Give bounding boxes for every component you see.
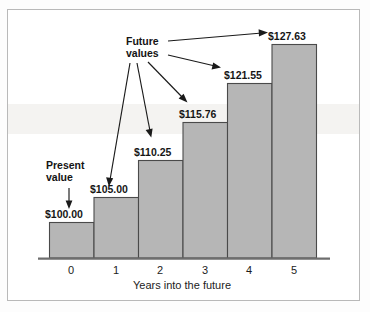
x-tick-label-5: 5	[291, 264, 297, 276]
present-value-annotation: Present value	[46, 159, 85, 209]
bar-value-label-4: $121.55	[224, 69, 262, 81]
bar-value-label-3: $115.76	[179, 108, 217, 120]
bar-year-0[interactable]	[50, 223, 95, 259]
future-arrow-to-127	[168, 29, 268, 41]
x-tick-label-3: 3	[202, 264, 208, 276]
x-tick-label-1: 1	[113, 264, 119, 276]
bar-chart: $100.00 $105.00 $110.25 $115.76 $121.55 …	[0, 0, 370, 312]
bar-year-4[interactable]	[228, 84, 273, 259]
bar-value-label-0: $100.00	[45, 208, 83, 220]
bar-year-3[interactable]	[183, 123, 228, 259]
bar-value-label-5: $127.63	[268, 30, 306, 42]
bar-year-1[interactable]	[94, 198, 139, 259]
future-arrow-to-115	[148, 62, 188, 103]
future-arrow-to-121	[168, 55, 221, 70]
x-axis-title: Years into the future	[133, 279, 231, 291]
bar-year-5[interactable]	[272, 45, 317, 259]
future-arrow-to-105	[106, 63, 130, 187]
bar-year-2[interactable]	[139, 161, 184, 259]
bars-group	[50, 45, 317, 259]
bar-value-label-2: $110.25	[134, 146, 172, 158]
future-values-label-line2: values	[126, 47, 159, 59]
x-tick-label-2: 2	[157, 264, 163, 276]
figure-canvas: $100.00 $105.00 $110.25 $115.76 $121.55 …	[0, 0, 370, 312]
present-value-label-line1: Present	[46, 159, 85, 171]
future-arrow-to-110	[137, 63, 153, 138]
future-values-label-line1: Future	[126, 35, 159, 47]
x-tick-label-4: 4	[246, 264, 252, 276]
x-tick-label-0: 0	[68, 264, 74, 276]
present-value-label-line2: value	[46, 171, 73, 183]
